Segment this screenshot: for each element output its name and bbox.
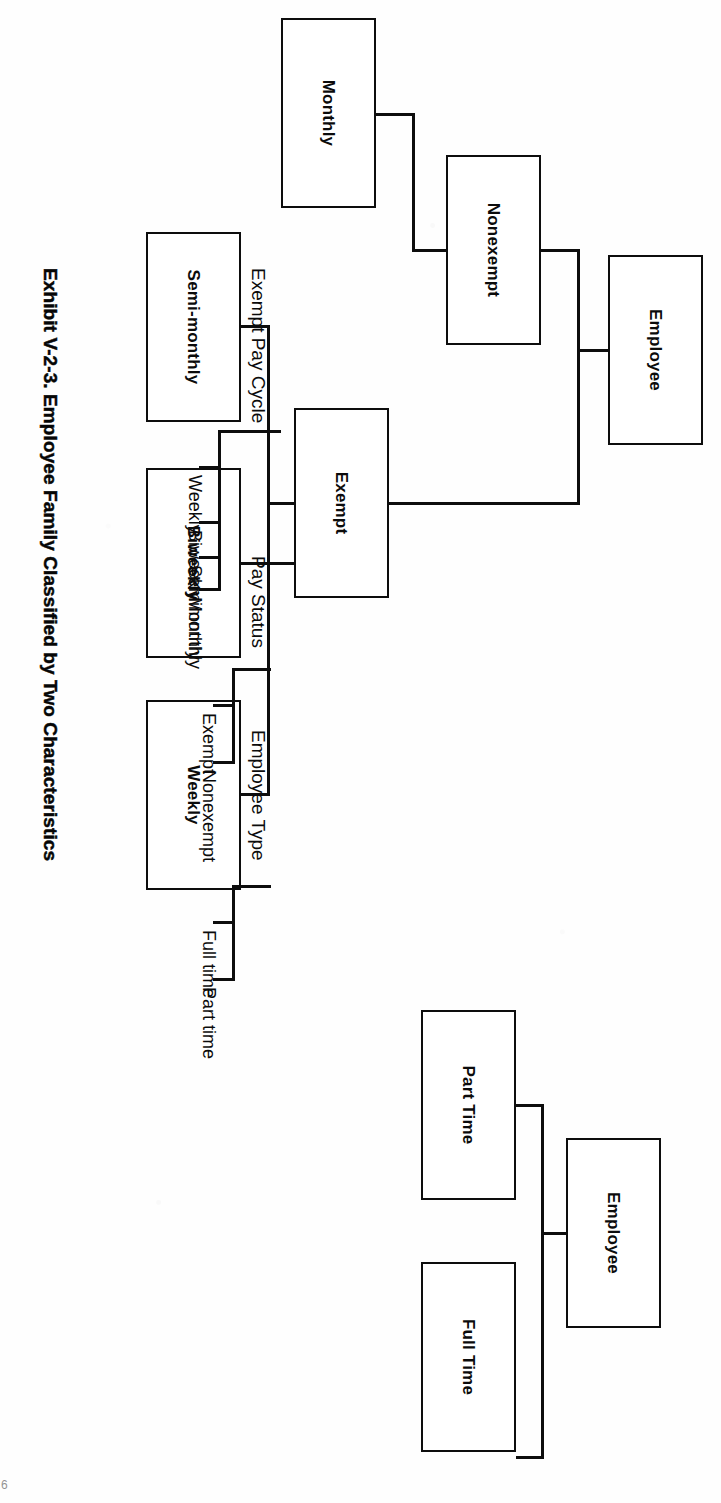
connector-employee2-bar [542, 1104, 545, 1458]
legend-vertical-rule [233, 668, 271, 671]
node-label: Employee [646, 309, 666, 391]
legend-spine [233, 668, 236, 764]
node-label: Employee [604, 1192, 624, 1274]
exhibit-caption: Exhibit V-2-3. Employee Family Classifie… [39, 268, 61, 861]
node-employee-root-tree2[interactable]: Employee [566, 1138, 661, 1328]
legend-exempt-pay-cycle: Exempt Pay Cycle Weekly Biweekly Semimon… [71, 268, 271, 598]
legend-spine [233, 885, 236, 981]
connector-exempt-up [389, 502, 580, 505]
scanned-page-canvas: Employee Nonexempt Exempt Monthly Semi-m… [0, 0, 721, 1503]
node-exempt[interactable]: Exempt [294, 408, 389, 598]
legend-tick [213, 761, 235, 764]
node-label: Full Time [459, 1319, 479, 1395]
connector-monthly-up [376, 113, 415, 116]
connector-exempt-down-semimonthly [268, 502, 294, 505]
legend-tick [213, 704, 235, 707]
legend-tick [199, 556, 221, 559]
legend-vertical-rule [233, 885, 271, 888]
node-label: Exempt [332, 472, 352, 535]
legend-title: Exempt Pay Cycle [247, 268, 269, 423]
connector-nonexempt-up [541, 249, 580, 252]
page-number: 6 [1, 1478, 8, 1492]
connector-nonexempt-down [413, 249, 446, 252]
node-part-time[interactable]: Part Time [421, 1010, 516, 1200]
node-full-time[interactable]: Full Time [421, 1262, 516, 1452]
legend-tick [199, 521, 221, 524]
connector-employee-down [578, 349, 608, 352]
connector-employee-across-left [578, 249, 581, 352]
connector-part-time-up [516, 1104, 544, 1107]
legend-vertical-rule [219, 430, 281, 433]
node-monthly[interactable]: Monthly [281, 18, 376, 208]
connector-full-time-up [516, 1456, 544, 1459]
legend-item-label: Weekly [184, 475, 205, 534]
legend-tick [199, 588, 221, 591]
legend-item-label: Monthly [184, 597, 205, 660]
connector-employee-across-right [578, 349, 581, 504]
connector-monthly-across [413, 113, 416, 252]
legend-tick [199, 466, 221, 469]
node-label: Monthly [319, 80, 339, 147]
node-label: Part Time [459, 1066, 479, 1145]
connector-employee2-down [542, 1232, 566, 1235]
node-employee-root-tree1[interactable]: Employee [608, 255, 703, 445]
legend-item-label: Part time [198, 987, 219, 1059]
legend-tick [213, 978, 235, 981]
legend-tick [213, 921, 235, 924]
node-label: Nonexempt [484, 203, 504, 297]
node-nonexempt[interactable]: Nonexempt [446, 155, 541, 345]
legend-spine [219, 430, 222, 590]
legend-item-label: Exempt [198, 713, 219, 774]
legend-item-label: Nonexempt [198, 770, 219, 862]
